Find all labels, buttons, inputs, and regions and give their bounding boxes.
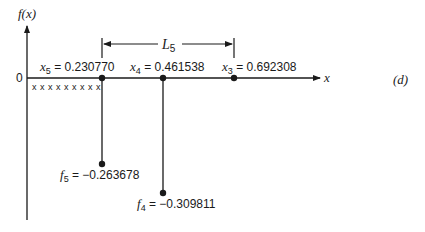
point-label-x3: x3 = 0.692308: [221, 59, 297, 76]
eliminated-region-marks: x x x x x x x x x: [32, 82, 101, 92]
y-axis-label: f(x): [18, 6, 36, 21]
point-label-x4: x4 = 0.461538: [129, 59, 205, 76]
point-f5: [99, 161, 105, 167]
golden-section-diagram: f(x) x 0 x x x x x x x x x L5 x5 = 0.230…: [0, 0, 425, 232]
origin-label: 0: [16, 71, 23, 85]
panel-label: (d): [393, 72, 408, 87]
x-axis-label: x: [323, 70, 330, 85]
point-label-x5: x5 = 0.230770: [39, 59, 115, 76]
point-f4: [160, 190, 166, 196]
point-x3: [231, 75, 237, 81]
value-label-f4: f4 = −0.309811: [137, 196, 216, 213]
value-label-f5: f5 = −0.263678: [60, 167, 140, 184]
interval-label: L5: [161, 37, 176, 54]
